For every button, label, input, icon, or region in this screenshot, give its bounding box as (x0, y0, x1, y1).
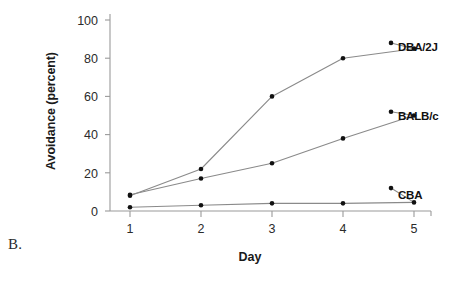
y-tick-label-100: 100 (62, 14, 98, 28)
data-markers (128, 41, 417, 210)
series-label-dba-2j: DBA/2J (398, 41, 438, 53)
figure-panel: B. Avoidance (percent) Day 100 80 60 40 … (0, 0, 470, 283)
panel-label: B. (8, 236, 22, 253)
data-lines (130, 43, 414, 207)
x-tick-label-1: 1 (118, 222, 142, 236)
y-axis-title: Avoidance (percent) (44, 16, 58, 206)
x-tick-label-5: 5 (402, 222, 426, 236)
y-tick-label-40: 40 (62, 128, 98, 142)
series-label-cba: CBA (398, 189, 422, 201)
y-tick-label-0: 0 (62, 205, 98, 219)
y-tick-label-20: 20 (62, 167, 98, 181)
y-tick-label-80: 80 (62, 52, 98, 66)
y-tick-label-60: 60 (62, 90, 98, 104)
x-axis-title: Day (170, 250, 330, 264)
x-tick-label-2: 2 (189, 222, 213, 236)
x-tick-label-4: 4 (331, 222, 355, 236)
series-label-balb-c: BALB/c (398, 110, 438, 122)
x-tick-label-3: 3 (260, 222, 284, 236)
